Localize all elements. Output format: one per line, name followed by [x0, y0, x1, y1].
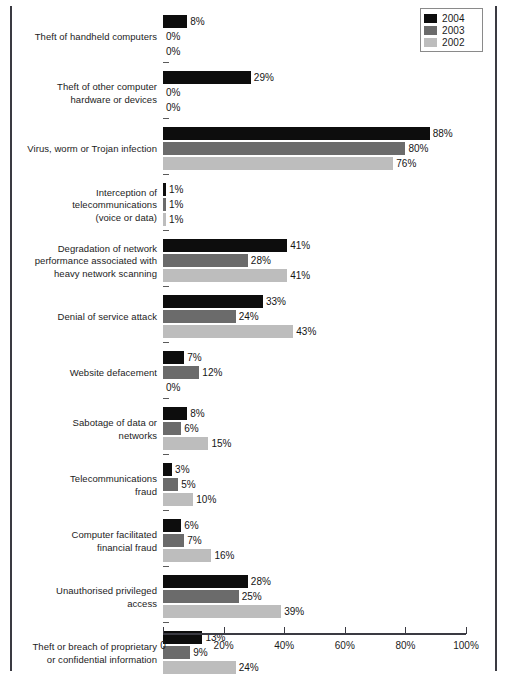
bar-row[interactable]: 0% [163, 86, 503, 99]
bar-value-label: 15% [211, 438, 231, 449]
bar-2002[interactable] [163, 437, 208, 450]
bar-row[interactable]: 1% [163, 213, 503, 226]
bar-2002[interactable] [163, 269, 287, 282]
bar-row[interactable]: 29% [163, 71, 503, 84]
bar-2002[interactable] [163, 157, 393, 170]
bar-2003[interactable] [163, 534, 184, 547]
bar-group: 7%12%0% [163, 351, 503, 396]
bar-row[interactable]: 6% [163, 422, 503, 435]
bar-row[interactable]: 33% [163, 295, 503, 308]
x-axis-tick-label: 0 [160, 640, 166, 652]
bar-value-label: 0% [166, 382, 180, 393]
bar-value-label: 5% [181, 479, 195, 490]
bar-row[interactable]: 88% [163, 127, 503, 140]
bar-row[interactable]: 24% [163, 310, 503, 323]
bar-2004[interactable] [163, 519, 181, 532]
bar-row[interactable]: 76% [163, 157, 503, 170]
bar-2004[interactable] [163, 183, 166, 196]
x-axis-tick-label: 40% [274, 640, 294, 652]
bar-2004[interactable] [163, 575, 248, 588]
category-label-line: performance associated with [0, 255, 157, 267]
bar-2004[interactable] [163, 127, 430, 140]
bar-value-label: 43% [296, 326, 316, 337]
bar-row[interactable]: 8% [163, 15, 503, 28]
bar-2002[interactable] [163, 605, 281, 618]
bar-row[interactable]: 0% [163, 381, 503, 394]
bar-row[interactable]: 41% [163, 239, 503, 252]
bar-2003[interactable] [163, 198, 166, 211]
x-axis-line [163, 633, 466, 635]
bar-row[interactable]: 10% [163, 493, 503, 506]
category-label: Telecommunicationsfraud [0, 473, 157, 498]
bar-value-label: 8% [190, 408, 204, 419]
category-label-line: Website defacement [0, 367, 157, 379]
bar-row[interactable]: 8% [163, 407, 503, 420]
category-label-line: Theft of other computer [0, 81, 157, 93]
bar-2004[interactable] [163, 295, 263, 308]
bar-2004[interactable] [163, 407, 187, 420]
bar-row[interactable]: 28% [163, 254, 503, 267]
bar-2004[interactable] [163, 351, 184, 364]
bar-2004[interactable] [163, 239, 287, 252]
category-label-line: (voice or data) [0, 212, 157, 224]
bar-row[interactable]: 43% [163, 325, 503, 338]
bar-row[interactable]: 41% [163, 269, 503, 282]
category-label: Website defacement [0, 367, 157, 379]
bar-row[interactable]: 0% [163, 30, 503, 43]
bar-row[interactable]: 6% [163, 519, 503, 532]
bar-2004[interactable] [163, 15, 187, 28]
bar-row[interactable]: 24% [163, 661, 503, 674]
chart-group: Theft of handheld computers8%0%0% [0, 15, 508, 60]
bar-2004[interactable] [163, 463, 172, 476]
category-label-line: fraud [0, 486, 157, 498]
bar-row[interactable]: 15% [163, 437, 503, 450]
bar-2003[interactable] [163, 310, 236, 323]
category-label: Denial of service attack [0, 311, 157, 323]
category-label-line: Degradation of network [0, 243, 157, 255]
bar-row[interactable]: 7% [163, 534, 503, 547]
bar-2003[interactable] [163, 366, 199, 379]
bar-row[interactable]: 7% [163, 351, 503, 364]
chart-group: Degradation of networkperformance associ… [0, 239, 508, 284]
bar-row[interactable]: 0% [163, 45, 503, 58]
category-label-line: heavy network scanning [0, 268, 157, 280]
bar-row[interactable]: 1% [163, 183, 503, 196]
bar-row[interactable]: 0% [163, 101, 503, 114]
bar-2002[interactable] [163, 661, 236, 674]
bar-2002[interactable] [163, 213, 166, 226]
category-separator-tick [163, 174, 169, 175]
bar-row[interactable]: 39% [163, 605, 503, 618]
x-axis-tick-mark [405, 627, 406, 634]
category-separator-tick [163, 342, 169, 343]
bar-2003[interactable] [163, 590, 239, 603]
bar-row[interactable]: 80% [163, 142, 503, 155]
bar-2002[interactable] [163, 493, 193, 506]
bar-2002[interactable] [163, 549, 211, 562]
bar-group: 8%6%15% [163, 407, 503, 452]
bar-2004[interactable] [163, 71, 251, 84]
bar-row[interactable]: 16% [163, 549, 503, 562]
category-separator-tick [163, 622, 169, 623]
bar-2003[interactable] [163, 422, 181, 435]
category-label-line: Interception of [0, 187, 157, 199]
bar-row[interactable]: 25% [163, 590, 503, 603]
bar-group: 41%28%41% [163, 239, 503, 284]
bar-2002[interactable] [163, 325, 293, 338]
category-separator-tick [163, 62, 169, 63]
bar-value-label: 24% [239, 662, 259, 673]
bar-row[interactable]: 12% [163, 366, 503, 379]
chart-group: Sabotage of data ornetworks8%6%15% [0, 407, 508, 452]
chart-group: Denial of service attack33%24%43% [0, 295, 508, 340]
bar-row[interactable]: 3% [163, 463, 503, 476]
bar-value-label: 9% [193, 647, 207, 658]
x-axis-tick-label: 20% [214, 640, 234, 652]
bar-row[interactable]: 28% [163, 575, 503, 588]
bar-row[interactable]: 1% [163, 198, 503, 211]
category-label: Interception oftelecommunications(voice … [0, 187, 157, 224]
bar-row[interactable]: 5% [163, 478, 503, 491]
bar-2003[interactable] [163, 142, 405, 155]
bar-2003[interactable] [163, 478, 178, 491]
bar-2003[interactable] [163, 254, 248, 267]
bar-2003[interactable] [163, 646, 190, 659]
bar-value-label: 41% [290, 240, 310, 251]
